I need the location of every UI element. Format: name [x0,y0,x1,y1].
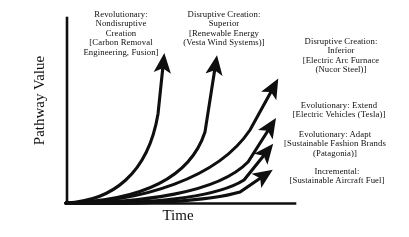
pathway-label-evolutionary-adapt: Evolutionary: Adapt [Sustainable Fashion… [264,130,406,158]
pathway-label-disruptive-creation-inferior: Disruptive Creation: Inferior [Electric … [276,37,406,75]
y-axis-label: Pathway Value [31,41,48,161]
x-axis-label: Time [128,207,228,224]
curve-disruptive-creation-inferior [66,90,272,203]
curve-disruptive-creation-superior [66,68,215,203]
pathway-label-disruptive-creation-superior: Disruptive Creation: Superior [Renewable… [168,10,280,48]
pathway-value-vs-time-diagram: Pathway Value Time Revolutionary: Nondis… [0,0,409,237]
pathway-label-evolutionary-extend: Evolutionary: Extend [Electric Vehicles … [272,101,406,120]
pathway-label-incremental: Incremental: [Sustainable Aircraft Fuel] [268,167,406,186]
pathway-label-revolutionary-nondisruptive-creation: Revolutionary: Nondisruptive Creation [C… [62,10,180,57]
curve-revolutionary-nondisruptive-creation [66,66,163,203]
